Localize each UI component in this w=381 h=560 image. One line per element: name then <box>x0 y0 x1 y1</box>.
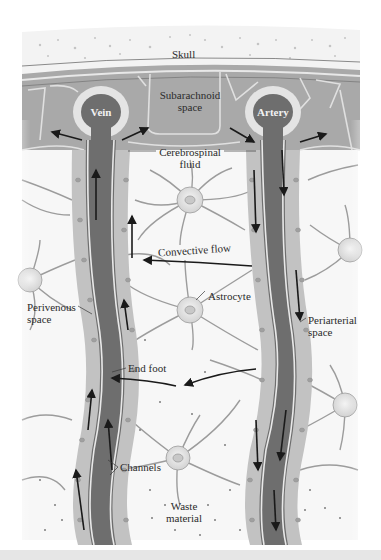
label-perivenous-line1: Perivenous <box>27 301 76 313</box>
glymphatic-diagram: Skull Subarachnoid space Vein Artery Cer… <box>0 0 381 560</box>
label-channels: Channels <box>120 461 161 473</box>
label-vein: Vein <box>84 106 118 118</box>
label-end-foot: End foot <box>128 362 166 374</box>
label-waste-line2: material <box>160 512 208 524</box>
label-periarterial-line2: space <box>308 326 332 338</box>
label-artery: Artery <box>252 106 294 118</box>
label-csf-line1: Cerebrospinal <box>152 146 228 158</box>
bottom-divider <box>0 550 381 560</box>
label-perivenous-line2: space <box>27 313 51 325</box>
label-csf-line2: fluid <box>152 158 228 170</box>
label-skull: Skull <box>172 48 195 60</box>
diagram-artwork <box>0 0 381 560</box>
label-astrocyte: Astrocyte <box>208 290 251 302</box>
label-subarachnoid-line1: Subarachnoid <box>154 89 226 101</box>
label-subarachnoid-line2: space <box>154 101 226 113</box>
label-periarterial-line1: Periarterial <box>308 314 357 326</box>
label-waste-line1: Waste <box>160 500 208 512</box>
